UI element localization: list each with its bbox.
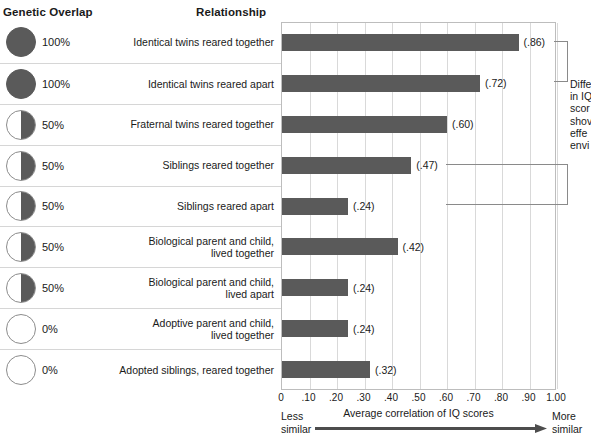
x-axis-tick: .50	[412, 392, 426, 403]
x-axis-tick: .10	[302, 392, 316, 403]
table-row[interactable]: 0%Adoptive parent and child,lived togeth…	[0, 308, 281, 349]
table-row[interactable]: 50%Siblings reared apart	[0, 186, 281, 227]
pie-half-icon	[6, 191, 36, 221]
more-similar-line2: similar	[552, 423, 582, 435]
genetic-overlap-cell: 100%	[0, 27, 86, 57]
relationship-label-line1: Adopted siblings, reared together	[119, 364, 274, 376]
table-row[interactable]: 0%Adopted siblings, reared together	[0, 349, 281, 390]
relationship-label-line1: Biological parent and child,	[149, 235, 275, 247]
relationship-label-line2: lived apart	[86, 288, 274, 301]
iq-correlation-figure: Genetic Overlap Relationship 100%Identic…	[0, 0, 591, 439]
relationship-label: Identical twins reared together	[86, 36, 281, 49]
relationship-label-line1: Siblings reared together	[163, 159, 275, 171]
genetic-overlap-percent: 0%	[42, 323, 58, 335]
genetic-overlap-cell: 50%	[0, 232, 86, 262]
bar[interactable]	[282, 320, 348, 337]
bar[interactable]	[282, 361, 370, 378]
x-axis-tick: .40	[384, 392, 398, 403]
relationship-label: Fraternal twins reared together	[86, 118, 281, 131]
pie-half-icon	[6, 232, 36, 262]
genetic-overlap-cell: 0%	[0, 314, 86, 344]
bar[interactable]	[282, 34, 519, 51]
axis-end-label-more-similar: More similar	[552, 410, 582, 435]
genetic-overlap-percent: 50%	[42, 282, 64, 294]
table-row[interactable]: 100%Identical twins reared apart	[0, 63, 281, 104]
less-similar-line1: Less	[281, 410, 303, 422]
genetic-overlap-cell: 50%	[0, 273, 86, 303]
bar[interactable]	[282, 198, 348, 215]
bar[interactable]	[282, 238, 398, 255]
bar-value-label: (.86)	[524, 36, 546, 48]
genetic-overlap-cell: 50%	[0, 110, 86, 140]
environment-effect-annotation: Diffe in IQ scor shov effe envi	[570, 78, 591, 151]
table-row[interactable]: 50%Biological parent and child,lived tog…	[0, 226, 281, 267]
relationship-label: Biological parent and child,lived apart	[86, 276, 281, 301]
table-row[interactable]: 100%Identical twins reared together	[0, 22, 281, 63]
right-arrow-icon	[315, 424, 547, 433]
relationship-label-line2: lived together	[86, 329, 274, 342]
relationship-label-line1: Siblings reared apart	[177, 200, 274, 212]
pie-half-icon	[6, 151, 36, 181]
pie-half-icon	[6, 110, 36, 140]
bar-value-label: (.24)	[353, 323, 375, 335]
more-similar-line1: More	[552, 410, 576, 422]
relationship-label: Siblings reared together	[86, 159, 281, 172]
genetic-overlap-percent: 100%	[42, 36, 70, 48]
genetic-overlap-percent: 50%	[42, 160, 64, 172]
bar[interactable]	[282, 116, 447, 133]
bar-value-label: (.24)	[353, 200, 375, 212]
x-axis-tick: .30	[357, 392, 371, 403]
x-axis-title: Average correlation of IQ scores	[281, 407, 556, 419]
column-header-genetic-overlap: Genetic Overlap	[3, 6, 93, 18]
pie-empty-icon	[6, 314, 36, 344]
genetic-overlap-percent: 50%	[42, 241, 64, 253]
annotation-bracket	[554, 41, 569, 82]
x-axis-tick: 1.00	[546, 392, 565, 403]
relationship-label-line1: Biological parent and child,	[149, 276, 275, 288]
gridline	[530, 23, 531, 389]
bar-chart-plot-area: (.86)(.72)(.60)(.47)(.24)(.42)(.24)(.24)…	[281, 22, 556, 390]
annotation-line-4: shov	[570, 115, 591, 127]
relationship-label-line1: Identical twins reared together	[133, 36, 274, 48]
annotation-line-5: effe	[570, 127, 591, 139]
bar[interactable]	[282, 75, 480, 92]
bar-value-label: (.72)	[485, 77, 507, 89]
pie-full-icon	[6, 27, 36, 57]
relationship-label-line1: Fraternal twins reared together	[130, 118, 274, 130]
annotation-bracket	[446, 164, 568, 205]
bar[interactable]	[282, 279, 348, 296]
relationship-label-line2: lived together	[86, 247, 274, 260]
table-row[interactable]: 50%Biological parent and child,lived apa…	[0, 267, 281, 308]
table-row[interactable]: 50%Fraternal twins reared together	[0, 104, 281, 145]
relationship-label: Adoptive parent and child,lived together	[86, 317, 281, 342]
genetic-overlap-percent: 100%	[42, 78, 70, 90]
less-similar-line2: similar	[281, 423, 311, 435]
x-axis-tick: .60	[439, 392, 453, 403]
annotation-line-6: envi	[570, 139, 591, 151]
x-axis-tick: .90	[522, 392, 536, 403]
x-axis-tick-labels: 0.10.20.30.40.50.60.70.80.901.00	[281, 392, 556, 406]
pie-half-icon	[6, 273, 36, 303]
genetic-overlap-cell: 50%	[0, 191, 86, 221]
genetic-overlap-percent: 50%	[42, 119, 64, 131]
x-axis-tick: .70	[467, 392, 481, 403]
genetic-overlap-cell: 0%	[0, 355, 86, 385]
relationship-table: 100%Identical twins reared together100%I…	[0, 22, 281, 390]
genetic-overlap-percent: 0%	[42, 364, 58, 376]
relationship-label-line1: Adoptive parent and child,	[153, 317, 274, 329]
relationship-label: Biological parent and child,lived togeth…	[86, 235, 281, 260]
table-row[interactable]: 50%Siblings reared together	[0, 145, 281, 186]
x-axis-tick: .20	[329, 392, 343, 403]
x-axis-tick: .80	[494, 392, 508, 403]
bar-value-label: (.60)	[452, 118, 474, 130]
pie-empty-icon	[6, 355, 36, 385]
annotation-line-3: scor	[570, 102, 591, 114]
bar[interactable]	[282, 157, 411, 174]
bar-value-label: (.32)	[375, 364, 397, 376]
bar-value-label: (.42)	[403, 241, 425, 253]
genetic-overlap-cell: 100%	[0, 69, 86, 99]
bar-value-label: (.47)	[416, 159, 438, 171]
genetic-overlap-cell: 50%	[0, 151, 86, 181]
axis-end-label-less-similar: Less similar	[281, 410, 311, 435]
annotation-line-2: in IQ	[570, 90, 591, 102]
